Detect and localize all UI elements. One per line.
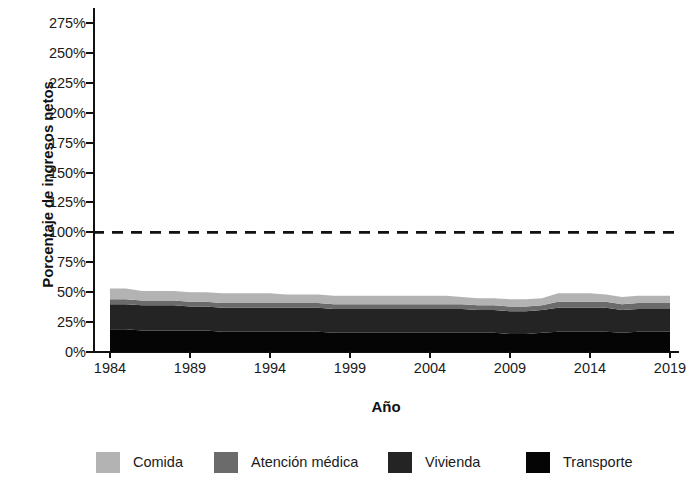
x-axis-tick-mark	[669, 351, 671, 358]
y-axis-tick-mark	[86, 231, 94, 233]
x-axis-tick-label: 1984	[94, 360, 126, 376]
legend-item[interactable]: Atención médica	[214, 450, 358, 474]
y-axis-tick-mark	[86, 261, 94, 263]
x-axis-tick-label: 1994	[254, 360, 286, 376]
y-axis-tick-mark	[86, 321, 94, 323]
x-axis-tick-mark	[109, 351, 111, 358]
y-axis-tick-label: 150%	[18, 165, 86, 181]
legend-swatch-icon	[388, 452, 412, 473]
y-axis-tick-mark	[86, 291, 94, 293]
y-axis-tick-label: 275%	[18, 15, 86, 31]
x-axis-tick-mark	[189, 351, 191, 358]
x-axis-tick-label: 2019	[654, 360, 686, 376]
x-axis-title: Año	[93, 398, 679, 415]
x-axis-tick-mark	[429, 351, 431, 358]
x-axis-tick-mark	[509, 351, 511, 358]
y-axis-tick-labels: 0%25%50%75%100%125%150%175%200%225%250%2…	[18, 0, 86, 370]
legend-label: Comida	[133, 454, 183, 470]
legend-item[interactable]: Transporte	[526, 450, 633, 474]
legend-label: Vivienda	[425, 454, 480, 470]
x-axis-tick-label: 2014	[574, 360, 606, 376]
y-axis-tick-mark	[86, 112, 94, 114]
legend-item[interactable]: Comida	[96, 450, 183, 474]
x-axis-tick-label: 1989	[174, 360, 206, 376]
y-axis-tick-mark	[86, 142, 94, 144]
legend-swatch-icon	[214, 452, 238, 473]
y-axis-tick-mark	[86, 82, 94, 84]
y-axis-tick-label: 100%	[18, 224, 86, 240]
legend-label: Atención médica	[251, 454, 358, 470]
x-axis-tick-label: 1999	[334, 360, 366, 376]
x-axis-tick-mark	[269, 351, 271, 358]
y-axis-tick-label: 75%	[18, 254, 86, 270]
legend-label: Transporte	[563, 454, 633, 470]
y-axis-tick-label: 125%	[18, 194, 86, 210]
legend-item[interactable]: Vivienda	[388, 450, 480, 474]
y-axis-tick-mark	[86, 52, 94, 54]
y-axis-tick-mark	[86, 22, 94, 24]
y-axis-tick-label: 50%	[18, 284, 86, 300]
y-axis-tick-mark	[86, 351, 94, 353]
x-axis-tick-mark	[589, 351, 591, 358]
chart-figure: Porcentaje de ingresos netos 0%25%50%75%…	[0, 0, 691, 480]
x-axis-tick-label: 2009	[494, 360, 526, 376]
legend-swatch-icon	[96, 452, 120, 473]
y-axis-tick-label: 200%	[18, 105, 86, 121]
y-axis-tick-label: 25%	[18, 314, 86, 330]
y-axis-tick-label: 175%	[18, 135, 86, 151]
y-axis-tick-mark	[86, 201, 94, 203]
stacked-area-chart	[93, 8, 679, 352]
plot-area	[93, 8, 679, 352]
legend-swatch-icon	[526, 452, 550, 473]
y-axis-tick-mark	[86, 172, 94, 174]
y-axis-tick-label: 225%	[18, 75, 86, 91]
y-axis-tick-label: 0%	[18, 344, 86, 360]
x-axis-tick-label: 2004	[414, 360, 446, 376]
x-axis-tick-labels: 19841989199419992004200920142019	[0, 360, 691, 384]
chart-legend: ComidaAtención médicaViviendaTransporte	[96, 450, 686, 476]
x-axis-tick-mark	[349, 351, 351, 358]
y-axis-tick-label: 250%	[18, 45, 86, 61]
